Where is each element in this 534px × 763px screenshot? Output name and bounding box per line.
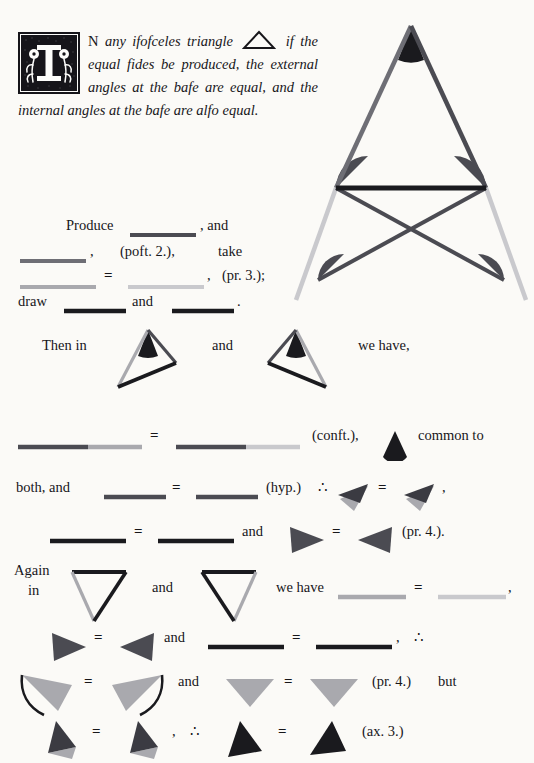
segment-eq-lhs-3 <box>206 643 286 651</box>
equals-sign-2: = <box>150 435 159 436</box>
comma-6: , <box>172 731 176 732</box>
enunciation-block: N any ifofceles triangle if the equal fi… <box>18 30 318 122</box>
angle-wedge-down-rhs <box>306 675 362 709</box>
equals-sign-3: = <box>172 487 181 488</box>
proposition-4-ref-1: (pr. 4.). <box>402 531 445 532</box>
equals-sign-9: = <box>292 637 301 638</box>
angle-wedge-final-4 <box>302 717 354 763</box>
postulate-2-ref: (poft. 2.), <box>120 251 175 252</box>
angle-sector-lhs-2 <box>286 525 328 555</box>
then-in-label: Then in <box>42 345 87 346</box>
draw-label: draw <box>18 301 47 302</box>
both-and-label: both, and <box>16 487 70 488</box>
segment-pr4-lhs-1 <box>48 537 128 545</box>
in-label: in <box>28 590 39 591</box>
equals-sign-5: = <box>134 531 143 532</box>
segment-produce-2 <box>18 257 88 265</box>
axiom-3-ref: (ax. 3.) <box>362 731 403 732</box>
angle-wedge-final-1 <box>34 717 86 763</box>
angle-wedge-rhs-1 <box>400 481 440 513</box>
triangle-figure-right-2 <box>190 567 272 625</box>
equals-sign-13: = <box>278 731 287 732</box>
common-to-label: common to <box>418 435 484 436</box>
therefore-symbol-2: ∴ <box>414 637 424 638</box>
angle-sector-with-arc-lhs <box>14 671 78 719</box>
and-label-5: and <box>152 587 173 588</box>
apex-angle-glyph-common <box>378 429 412 461</box>
period-1: . <box>237 301 241 302</box>
angle-sector-lhs-3 <box>48 631 90 663</box>
and-label-1: , and <box>200 225 228 226</box>
comma-3: , <box>442 487 446 488</box>
angle-wedge-lhs-1 <box>334 481 374 513</box>
and-label-3: and <box>212 345 233 346</box>
enunciation-line-4: angles at the bafe are equal, and the <box>88 79 318 95</box>
right-equal-side <box>411 26 486 188</box>
produced-right-leg <box>486 188 526 300</box>
angle-wedge-final-2 <box>116 717 168 763</box>
segment-draw-1 <box>62 307 128 315</box>
segment-pr4-rhs-1 <box>156 537 236 545</box>
produced-left-leg <box>296 188 336 300</box>
cross-line-left-to-right <box>336 188 504 280</box>
segment-produce-1 <box>128 231 198 239</box>
angle-sector-rhs-2 <box>354 525 396 555</box>
triangle-figure-left-2 <box>64 567 146 625</box>
compound-segment-lhs-1 <box>16 443 144 451</box>
angle-wedge-down-lhs <box>222 675 278 709</box>
equals-sign-10: = <box>84 681 93 682</box>
compound-segment-rhs-1 <box>174 443 302 451</box>
and-label-6: and <box>164 637 185 638</box>
and-label-2: and <box>132 301 153 302</box>
and-label-7: and <box>178 681 199 682</box>
produce-label: Produce <box>66 225 114 226</box>
triangle-outline-icon <box>242 30 276 50</box>
angle-sector-rhs-3 <box>116 631 158 663</box>
equals-sign-1: = <box>104 275 113 276</box>
enunciation-line-6: equal. <box>222 102 258 118</box>
therefore-symbol-1: ∴ <box>318 487 328 488</box>
segment-hyp-rhs <box>194 493 260 501</box>
enunciation-line-1: any ifofceles triangle <box>105 33 233 49</box>
equals-sign-4: = <box>378 487 387 488</box>
segment-hyp-lhs <box>102 493 168 501</box>
and-label-4: and <box>242 531 263 532</box>
again-label: Again <box>14 570 49 571</box>
proposition-3-ref: (pr. 3.); <box>222 275 265 276</box>
proposition-4-ref-2: (pr. 4.) <box>372 681 411 682</box>
enunciation-line-5: internal angles at the bafe are alfo <box>18 102 219 118</box>
main-diagram <box>288 8 534 308</box>
comma-1: , <box>90 251 94 252</box>
segment-again-lhs <box>336 593 408 601</box>
base-angle-left-sector <box>336 156 368 188</box>
construction-ref: (conft.), <box>312 435 359 436</box>
we-have-label-2: we have <box>276 587 324 588</box>
left-equal-side <box>336 26 411 188</box>
segment-eq-rhs-3 <box>314 643 394 651</box>
angle-sector-with-arc-rhs <box>106 671 170 719</box>
comma-5: , <box>396 637 400 638</box>
but-label: but <box>438 681 457 682</box>
take-label: take <box>218 251 242 252</box>
base-angle-right-sector <box>454 156 486 188</box>
therefore-symbol-3: ∴ <box>190 731 200 732</box>
ornamental-dropcap-I <box>18 32 80 94</box>
equals-sign-7: = <box>414 587 423 588</box>
angle-wedge-final-3 <box>218 717 270 763</box>
equals-sign-12: = <box>92 731 101 732</box>
comma-4: , <box>508 587 512 588</box>
enunciation-leading-cap: N <box>88 33 98 49</box>
equals-sign-6: = <box>332 531 341 532</box>
hypothesis-ref: (hyp.) <box>266 487 301 488</box>
triangle-figure-right-1 <box>258 325 338 393</box>
comma-2: , <box>207 275 211 276</box>
we-have-label-1: we have, <box>358 345 410 346</box>
segment-again-rhs <box>436 593 508 601</box>
segment-take-lhs <box>18 283 98 291</box>
segment-draw-2 <box>170 307 236 315</box>
triangle-figure-left-1 <box>110 325 190 393</box>
equals-sign-11: = <box>284 681 293 682</box>
segment-take-rhs <box>126 283 206 291</box>
equals-sign-8: = <box>94 637 103 638</box>
